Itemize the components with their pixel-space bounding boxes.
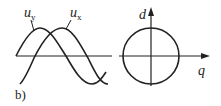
phasor-panel: [119, 7, 210, 86]
axis-label-q: q: [198, 64, 205, 78]
q-axis-arrow-icon: [201, 53, 210, 59]
label-ux: ux: [70, 6, 82, 20]
label-uy: uy: [24, 6, 36, 20]
d-axis-arrow-icon: [148, 7, 154, 16]
axis-label-d: d: [139, 8, 146, 22]
figure-caption: b): [15, 88, 26, 101]
waveform-panel: [16, 20, 112, 84]
label-leader-ux: [66, 20, 71, 29]
